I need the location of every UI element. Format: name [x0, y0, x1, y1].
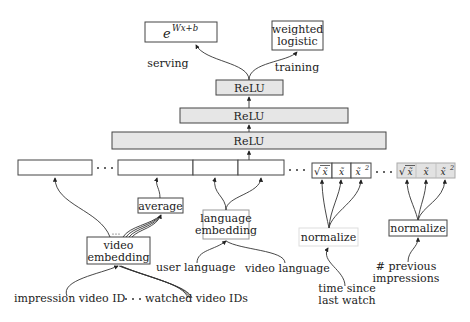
edge-user-lang-to-lang-emb	[197, 241, 226, 263]
user-language-label: user language	[156, 261, 235, 274]
relu-layer-1-label: ReLU	[234, 135, 265, 148]
edge-video-emb-to-impression-vector	[55, 178, 110, 237]
edge-norm1-to-sqrt	[322, 180, 329, 228]
video-language-vector	[238, 160, 284, 175]
relu-layer-2-label: ReLU	[234, 110, 265, 123]
normalize-2-label: normalize	[390, 222, 445, 235]
time-since-features: √ x̃ x̃ x̃ 2	[312, 163, 371, 178]
language-embedding-node: language embedding	[195, 210, 257, 239]
video-emb-dots	[112, 233, 119, 234]
input-ellipsis	[125, 298, 141, 300]
svg-text:x̃: x̃	[440, 167, 445, 177]
serving-output-node: e Wx+b	[145, 22, 217, 42]
x-symbol-1: x̃	[339, 167, 344, 177]
impression-video-vector	[18, 160, 92, 175]
ellipsis-dots-2	[289, 169, 305, 171]
average-label: average	[138, 200, 183, 213]
video-embedding-node: video embedding	[87, 237, 150, 264]
relu-layer-1: ReLU	[112, 132, 386, 149]
edge-norm2-to-x	[418, 180, 426, 220]
normalize-1-label: normalize	[301, 231, 356, 244]
edge-relu-to-serving	[196, 45, 249, 80]
edge-norm1-to-x	[329, 180, 341, 228]
edge-lang-emb-to-video-lang-vector	[226, 178, 261, 210]
svg-text:x̃: x̃	[355, 167, 360, 177]
serving-base: e	[163, 26, 171, 41]
ranking-network-diagram: e Wx+b weighted logistic serving trainin…	[0, 0, 470, 322]
edge-video-lang-to-lang-emb	[226, 241, 285, 263]
user-language-vector	[193, 160, 238, 175]
watched-video-ids-label: watched video IDs	[145, 292, 248, 305]
edge-lang-emb-to-user-lang-vector	[215, 178, 226, 210]
training-label-line2: logistic	[277, 35, 317, 48]
normalize-node-1: normalize	[299, 228, 358, 246]
edge-norm2-to-x2	[418, 180, 445, 220]
serving-edge-label: serving	[147, 57, 188, 70]
sqrt-symbol-1: √	[314, 166, 321, 177]
svg-text:x̃: x̃	[407, 167, 412, 177]
x-symbol-2: x̃	[423, 167, 428, 177]
ellipsis-dots-1	[97, 167, 113, 169]
training-output-node: weighted logistic	[272, 21, 324, 50]
edge-norm2-to-sqrt	[407, 180, 418, 220]
edge-average-to-vector	[157, 178, 160, 198]
prev-impressions-label-line2: impressions	[373, 272, 440, 285]
svg-text:2: 2	[449, 164, 454, 172]
video-language-label: video language	[244, 262, 330, 275]
impression-video-id-label: impression video ID	[14, 292, 126, 305]
ellipsis-dots-3	[376, 171, 392, 173]
edge-norm1-to-x2	[329, 180, 361, 228]
relu-layer-2: ReLU	[180, 108, 348, 123]
sqrt-symbol-2: √	[399, 166, 406, 177]
training-edge-label: training	[275, 61, 319, 74]
average-node: average	[138, 198, 183, 213]
svg-text:x̃: x̃	[322, 167, 327, 177]
edge-prev-impr-to-norm2	[408, 238, 418, 262]
video-embedding-line2: embedding	[87, 251, 149, 264]
relu-layer-3-label: ReLU	[234, 82, 265, 95]
time-since-label-line2: last watch	[318, 294, 375, 307]
relu-layer-3: ReLU	[216, 80, 283, 95]
serving-exponent: Wx+b	[172, 23, 198, 33]
normalize-node-2: normalize	[389, 220, 447, 236]
watched-average-vector	[118, 160, 193, 175]
language-embedding-line2: embedding	[195, 224, 257, 237]
svg-text:2: 2	[364, 164, 369, 172]
prev-impressions-features: √ x̃ x̃ x̃ 2	[397, 163, 455, 178]
